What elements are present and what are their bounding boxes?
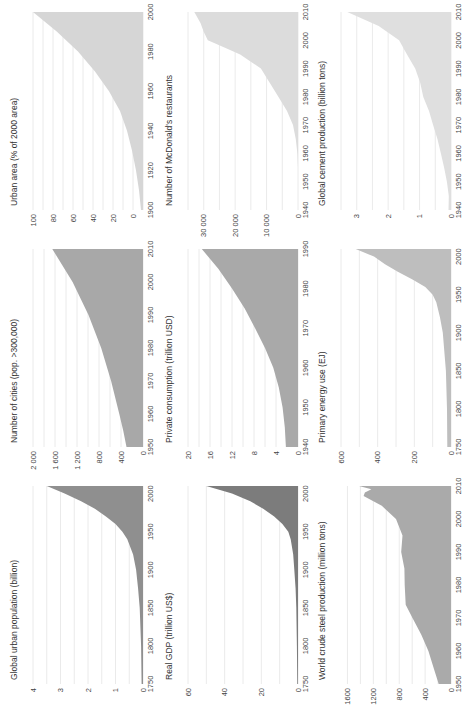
svg-text:12: 12 <box>228 451 237 459</box>
svg-text:1990: 1990 <box>146 307 155 324</box>
panel-number-of-cities: Number of cities (pop. >300,000)04008001… <box>5 237 160 477</box>
svg-text:800: 800 <box>395 688 404 701</box>
svg-text:1990: 1990 <box>301 241 310 258</box>
y-axis-ticks: 04008001 2001 6002 000 <box>29 451 148 470</box>
svg-text:1950: 1950 <box>146 523 155 540</box>
svg-text:1960: 1960 <box>454 145 463 162</box>
svg-text:2000: 2000 <box>146 485 155 502</box>
svg-text:1850: 1850 <box>454 363 463 380</box>
svg-text:1960: 1960 <box>146 83 155 100</box>
panel-steel-production: World crude steel production (million to… <box>313 474 468 714</box>
svg-text:2 000: 2 000 <box>29 451 38 470</box>
svg-text:1940: 1940 <box>454 202 463 219</box>
svg-text:2000: 2000 <box>454 511 463 528</box>
panel-urban-area: Urban area (% of 2000 area)0204060801001… <box>5 0 160 240</box>
svg-text:1900: 1900 <box>454 324 463 341</box>
svg-text:1970: 1970 <box>301 320 310 337</box>
svg-text:1: 1 <box>111 688 120 692</box>
svg-text:20: 20 <box>109 214 118 222</box>
svg-text:40: 40 <box>220 688 229 696</box>
svg-text:1940: 1940 <box>146 122 155 139</box>
svg-text:2000: 2000 <box>454 248 463 265</box>
chart-title: Primary energy use (EJ) <box>317 351 327 443</box>
x-axis-ticks: 19401950196019701980199020002010 <box>454 4 463 219</box>
svg-text:1800: 1800 <box>454 401 463 418</box>
chart-title: Real GDP (trillion US$) <box>164 593 174 680</box>
y-axis-ticks: 0123 <box>352 214 455 218</box>
svg-text:1920: 1920 <box>146 162 155 179</box>
svg-text:100: 100 <box>29 214 38 227</box>
chart-real-gdp: Real GDP (trillion US$)02040601750180018… <box>160 474 315 714</box>
svg-text:1950: 1950 <box>454 173 463 190</box>
svg-text:1 600: 1 600 <box>51 451 60 470</box>
svg-text:1970: 1970 <box>454 117 463 134</box>
svg-text:1950: 1950 <box>454 676 463 693</box>
chart-title: Urban area (% of 2000 area) <box>9 98 19 206</box>
svg-text:2010: 2010 <box>454 4 463 21</box>
svg-text:1900: 1900 <box>301 561 310 578</box>
svg-text:1980: 1980 <box>146 340 155 357</box>
x-axis-ticks: 19401950196019701980199020002010 <box>301 4 310 219</box>
area-series <box>356 249 451 447</box>
svg-text:1750: 1750 <box>301 676 310 693</box>
svg-text:1750: 1750 <box>454 439 463 456</box>
svg-text:20: 20 <box>257 688 266 696</box>
svg-text:2010: 2010 <box>301 4 310 21</box>
area-series <box>47 486 143 684</box>
svg-text:2000: 2000 <box>301 485 310 502</box>
chart-steel-production: World crude steel production (million to… <box>313 474 468 714</box>
chart-title: Global urban population (billion) <box>9 560 19 680</box>
svg-text:16: 16 <box>206 451 215 459</box>
svg-text:2000: 2000 <box>146 274 155 291</box>
chart-title: Number of McDonald's restaurants <box>164 75 174 206</box>
svg-text:1970: 1970 <box>454 610 463 627</box>
svg-text:1950: 1950 <box>146 439 155 456</box>
y-axis-ticks: 0200400600 <box>337 451 456 464</box>
y-axis-ticks: 010 00020 00030 000 <box>199 214 302 237</box>
svg-text:800: 800 <box>95 451 104 464</box>
figure-grid: Global urban population (billion)0123417… <box>0 0 468 722</box>
y-axis-ticks: 01234 <box>29 688 148 692</box>
x-axis-ticks: 175018001850190019502000 <box>301 485 310 692</box>
svg-text:1950: 1950 <box>454 286 463 303</box>
chart-urban-area: Urban area (% of 2000 area)0204060801001… <box>5 0 160 240</box>
y-axis-ticks: 020406080100 <box>29 214 138 227</box>
svg-text:1970: 1970 <box>146 373 155 390</box>
svg-text:1950: 1950 <box>301 523 310 540</box>
panel-cement-production: Global cement production (billion tons)0… <box>313 0 468 240</box>
chart-energy-use: Primary energy use (EJ)02004006001750180… <box>313 237 468 477</box>
chart-urban-population: Global urban population (billion)0123417… <box>5 474 160 714</box>
svg-text:1980: 1980 <box>454 577 463 594</box>
chart-title: Number of cities (pop. >300,000) <box>9 319 19 443</box>
svg-text:1940: 1940 <box>301 439 310 456</box>
chart-private-consumption: Private consumption (trillion USD)048121… <box>160 237 315 477</box>
x-axis-ticks: 1950196019701980199020002010 <box>454 478 463 693</box>
svg-text:80: 80 <box>49 214 58 222</box>
svg-text:20: 20 <box>184 451 193 459</box>
svg-text:1950: 1950 <box>301 173 310 190</box>
svg-text:1850: 1850 <box>146 600 155 617</box>
svg-text:2000: 2000 <box>301 32 310 49</box>
svg-text:1200: 1200 <box>369 688 378 705</box>
svg-text:2000: 2000 <box>454 32 463 49</box>
svg-text:20 000: 20 000 <box>231 214 240 237</box>
svg-text:1600: 1600 <box>343 688 352 705</box>
svg-text:1990: 1990 <box>454 544 463 561</box>
svg-text:1 200: 1 200 <box>73 451 82 470</box>
chart-number-of-cities: Number of cities (pop. >300,000)04008001… <box>5 237 160 477</box>
svg-text:2: 2 <box>84 688 93 692</box>
svg-text:2010: 2010 <box>454 478 463 495</box>
y-axis-ticks: 048121620 <box>184 451 303 459</box>
svg-text:200: 200 <box>410 451 419 464</box>
svg-text:1900: 1900 <box>146 561 155 578</box>
svg-text:3: 3 <box>56 688 65 692</box>
svg-text:1980: 1980 <box>454 89 463 106</box>
svg-text:1990: 1990 <box>301 60 310 77</box>
chart-title: Global cement production (billion tons) <box>317 61 327 206</box>
svg-text:1900: 1900 <box>146 202 155 219</box>
svg-text:1960: 1960 <box>146 406 155 423</box>
svg-text:400: 400 <box>421 688 430 701</box>
x-axis-ticks: 175018001850190019502000 <box>146 485 155 692</box>
chart-mcdonalds: Number of McDonald's restaurants010 0002… <box>160 0 315 240</box>
svg-text:1800: 1800 <box>146 638 155 655</box>
